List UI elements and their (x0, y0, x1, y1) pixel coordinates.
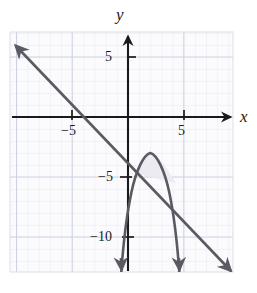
minor-gridlines (10, 32, 233, 272)
x-axis-label: x (240, 108, 248, 125)
x-tick-label-5: 5 (178, 124, 185, 138)
y-tick-label-neg5: −5 (98, 170, 113, 184)
y-tick-label-5: 5 (105, 50, 112, 64)
y-axis-label: y (116, 6, 124, 23)
parabola-arrow-left (121, 258, 122, 270)
y-tick-label-neg10: −10 (90, 230, 112, 244)
graph-figure: y x 5 −5 −10 −5 5 (0, 0, 257, 293)
parabola-arrow-right (179, 258, 180, 270)
coordinate-plane (0, 0, 257, 293)
x-tick-label-neg5: −5 (61, 124, 76, 138)
